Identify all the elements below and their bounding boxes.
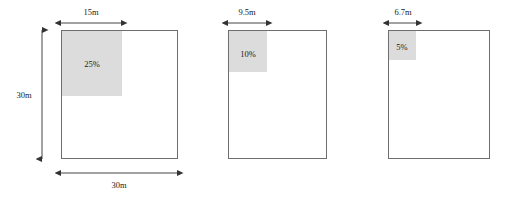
panel-2-top-dimension-label: 9.5m xyxy=(238,7,256,17)
panel-3-percent-label: 5% xyxy=(396,42,407,52)
panel-1-bottom-dimension: 30m xyxy=(61,173,177,190)
panel-1-top-dimension: 15m xyxy=(61,7,121,23)
three-squares-area-diagram: 15m 30m 25% 30m 9.5m xyxy=(0,0,517,201)
panel-1-group: 15m 30m 25% 30m xyxy=(16,7,177,190)
panel-1-bottom-dimension-label: 30m xyxy=(111,180,127,190)
panel-2-group: 9.5m 10% xyxy=(228,7,327,159)
panel-3-top-dimension: 6.7m xyxy=(389,7,416,23)
panel-1-top-dimension-label: 15m xyxy=(83,7,99,17)
panel-1-left-dimension-label: 30m xyxy=(16,90,32,100)
panel-1-left-dimension: 30m xyxy=(16,30,42,159)
panel-1-percent-label: 25% xyxy=(84,59,100,69)
panel-2-percent-label: 10% xyxy=(240,49,256,59)
panel-3-group: 6.7m 5% xyxy=(389,7,490,159)
diagram-container: 15m 30m 25% 30m 9.5m xyxy=(0,0,517,201)
panel-3-top-dimension-label: 6.7m xyxy=(394,7,412,17)
panel-2-top-dimension: 9.5m xyxy=(228,7,266,23)
